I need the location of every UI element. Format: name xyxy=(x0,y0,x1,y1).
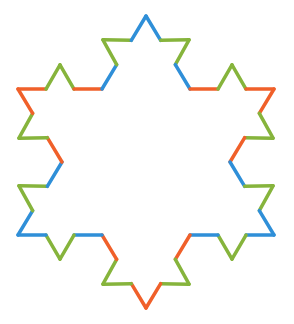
snowflake-segment xyxy=(245,138,273,139)
snowflake-segment xyxy=(19,186,33,211)
snowflake-segment xyxy=(19,138,47,139)
snowflake-segment xyxy=(175,259,189,284)
snowflake-segment xyxy=(103,40,117,65)
koch-snowflake-diagram xyxy=(0,0,294,324)
snowflake-segment xyxy=(245,186,273,187)
snowflake-segment xyxy=(60,65,74,89)
snowflake-segment xyxy=(232,65,246,89)
snowflake-outline xyxy=(18,16,274,308)
snowflake-segment xyxy=(102,235,117,259)
snowflake-segment xyxy=(131,284,146,308)
snowflake-segment xyxy=(259,113,273,138)
snowflake-segment xyxy=(103,259,117,284)
snowflake-segment xyxy=(218,65,232,89)
snowflake-segment xyxy=(175,235,190,259)
snowflake-segment xyxy=(230,138,245,162)
snowflake-segment xyxy=(19,113,33,138)
snowflake-segment xyxy=(19,186,47,187)
snowflake-segment xyxy=(102,65,117,89)
snowflake-segment xyxy=(218,235,232,259)
snowflake-segment xyxy=(46,65,60,89)
snowflake-segment xyxy=(259,89,274,113)
snowflake-segment xyxy=(47,138,62,162)
snowflake-segment xyxy=(47,162,62,186)
snowflake-segment xyxy=(46,235,60,259)
snowflake-segment xyxy=(103,40,131,41)
snowflake-segment xyxy=(18,89,33,113)
snowflake-segment xyxy=(161,284,189,285)
snowflake-segment xyxy=(175,40,189,65)
snowflake-segment xyxy=(232,235,246,259)
snowflake-segment xyxy=(60,235,74,259)
snowflake-segment xyxy=(161,40,189,41)
snowflake-segment xyxy=(131,16,146,40)
snowflake-segment xyxy=(259,186,273,211)
snowflake-segment xyxy=(230,162,245,186)
snowflake-segment xyxy=(259,211,274,235)
snowflake-segment xyxy=(18,211,33,235)
snowflake-segment xyxy=(146,16,161,40)
snowflake-segment xyxy=(103,284,131,285)
snowflake-segment xyxy=(146,284,161,308)
snowflake-segment xyxy=(175,65,190,89)
